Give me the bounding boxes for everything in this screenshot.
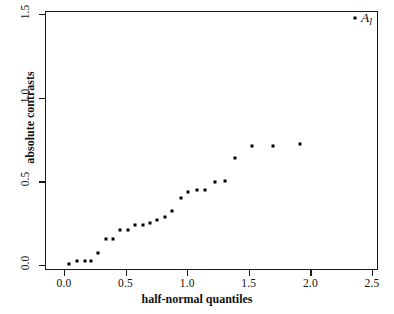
outlier-point-label: Al <box>361 10 372 27</box>
y-axis-tick <box>39 181 45 182</box>
data-point <box>67 262 70 265</box>
data-point <box>126 228 129 231</box>
x-axis-tick <box>310 270 311 276</box>
x-axis-tick <box>372 270 373 276</box>
x-axis-title: half-normal quantiles <box>0 292 394 307</box>
data-point <box>83 259 86 262</box>
y-axis-tick <box>39 98 45 99</box>
data-point <box>112 238 115 241</box>
x-axis-tick-label: 0.0 <box>44 277 84 289</box>
half-normal-plot-figure: 0.00.51.01.52.02.50.00.51.01.5 Al half-n… <box>0 0 394 314</box>
data-point <box>149 222 152 225</box>
data-point <box>179 197 182 200</box>
x-axis-tick <box>187 270 188 276</box>
y-axis-tick <box>39 265 45 266</box>
data-point <box>156 219 159 222</box>
outlier-label-text: A <box>361 10 369 25</box>
data-point <box>224 180 227 183</box>
data-point <box>353 16 356 19</box>
y-axis-title: absolute contrasts <box>23 38 38 198</box>
x-axis-tick-label: 2.5 <box>352 277 392 289</box>
data-point <box>187 190 190 193</box>
x-axis-tick-label: 1.0 <box>167 277 207 289</box>
x-axis-tick <box>126 270 127 276</box>
x-axis-tick <box>249 270 250 276</box>
data-point <box>134 224 137 227</box>
scatter-points-layer <box>46 12 377 269</box>
data-point <box>89 259 92 262</box>
x-axis-tick <box>64 270 65 276</box>
x-axis-tick-label: 1.5 <box>229 277 269 289</box>
data-point <box>141 223 144 226</box>
data-point <box>251 145 254 148</box>
outlier-label-subscript: l <box>369 16 372 27</box>
y-axis-tick <box>39 14 45 15</box>
data-point <box>214 181 217 184</box>
data-point <box>171 209 174 212</box>
y-axis-tick-label: 1.5 <box>19 0 31 27</box>
data-point <box>104 238 107 241</box>
data-point <box>163 215 166 218</box>
data-point <box>76 260 79 263</box>
data-point <box>272 145 275 148</box>
x-axis-tick-label: 2.0 <box>290 277 330 289</box>
data-point <box>299 142 302 145</box>
data-point <box>234 157 237 160</box>
data-point <box>119 229 122 232</box>
data-point <box>97 251 100 254</box>
y-axis-tick-label: 0.0 <box>19 248 31 278</box>
plot-frame <box>45 11 378 270</box>
data-point <box>204 188 207 191</box>
data-point <box>195 188 198 191</box>
x-axis-tick-label: 0.5 <box>106 277 146 289</box>
